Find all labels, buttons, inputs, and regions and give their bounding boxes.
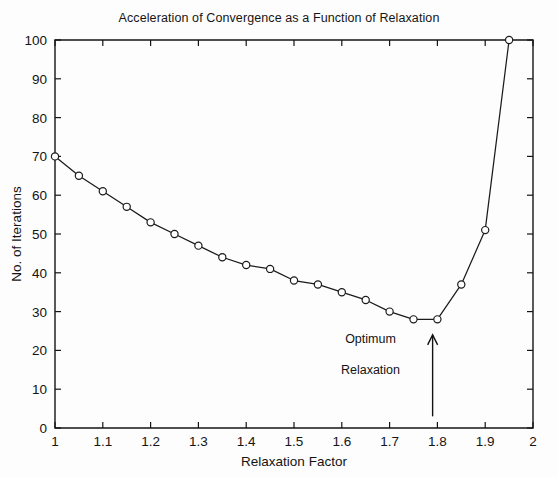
x-tick-label: 1.2 xyxy=(141,434,160,449)
y-axis-title: No. of Iterations xyxy=(9,186,24,282)
annotation-line-2: Relaxation xyxy=(341,363,400,377)
axis-box xyxy=(55,40,533,428)
chart-figure: Acceleration of Convergence as a Functio… xyxy=(0,0,558,477)
data-point-markers xyxy=(51,36,512,323)
y-tick-label: 80 xyxy=(32,111,47,126)
annotation-line-1: Optimum xyxy=(345,332,396,346)
y-tick-label: 70 xyxy=(32,149,47,164)
y-tick-label: 40 xyxy=(32,266,47,281)
x-tick-label: 1.8 xyxy=(428,434,447,449)
chart-plot-area: 11.11.21.31.41.51.61.71.81.92 0102030405… xyxy=(0,0,558,477)
data-point-marker xyxy=(99,188,106,195)
y-axis-ticks xyxy=(55,40,533,428)
x-axis-ticks xyxy=(55,40,533,428)
data-point-marker xyxy=(171,230,178,237)
axes xyxy=(55,40,533,428)
x-tick-label: 2 xyxy=(529,434,537,449)
x-tick-label: 1.4 xyxy=(237,434,256,449)
y-tick-label: 10 xyxy=(32,382,47,397)
data-point-marker xyxy=(410,316,417,323)
data-point-marker xyxy=(338,289,345,296)
y-tick-label: 100 xyxy=(24,33,47,48)
x-tick-label: 1 xyxy=(51,434,59,449)
x-tick-label: 1.5 xyxy=(285,434,304,449)
data-point-marker xyxy=(362,296,369,303)
data-point-marker xyxy=(75,172,82,179)
y-tick-label: 60 xyxy=(32,188,47,203)
data-point-marker xyxy=(386,308,393,315)
data-point-marker xyxy=(434,316,441,323)
x-tick-label: 1.7 xyxy=(380,434,399,449)
y-tick-label: 30 xyxy=(32,305,47,320)
data-point-marker xyxy=(195,242,202,249)
x-tick-label: 1.3 xyxy=(189,434,208,449)
chart-annotations: OptimumRelaxation xyxy=(341,332,438,417)
x-axis-title: Relaxation Factor xyxy=(241,454,347,469)
x-tick-label: 1.6 xyxy=(332,434,351,449)
x-axis-tick-labels: 11.11.21.31.41.51.61.71.81.92 xyxy=(51,434,537,449)
data-point-marker xyxy=(51,153,58,160)
series-polyline xyxy=(55,40,509,319)
data-point-marker xyxy=(458,281,465,288)
y-tick-label: 50 xyxy=(32,227,47,242)
data-point-marker xyxy=(243,261,250,268)
data-point-marker xyxy=(482,227,489,234)
data-point-marker xyxy=(219,254,226,261)
y-tick-label: 90 xyxy=(32,72,47,87)
x-tick-label: 1.9 xyxy=(476,434,495,449)
data-point-marker xyxy=(290,277,297,284)
data-point-marker xyxy=(506,36,513,43)
data-point-marker xyxy=(314,281,321,288)
data-series-iterations xyxy=(55,40,509,319)
data-point-marker xyxy=(147,219,154,226)
x-tick-label: 1.1 xyxy=(93,434,112,449)
data-point-marker xyxy=(267,265,274,272)
y-tick-label: 20 xyxy=(32,343,47,358)
data-point-marker xyxy=(123,203,130,210)
y-tick-label: 0 xyxy=(39,421,47,436)
y-axis-tick-labels: 0102030405060708090100 xyxy=(24,33,47,436)
